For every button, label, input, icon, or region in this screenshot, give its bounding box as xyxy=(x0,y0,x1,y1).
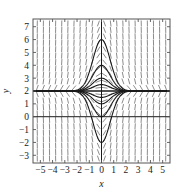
x-tick-label: 0 xyxy=(99,165,104,175)
slope-field-chart: −5−4−3−2−1012345 −3−2−101234567 x y xyxy=(0,0,182,193)
slope-field-figure: −5−4−3−2−1012345 −3−2−101234567 x y xyxy=(0,0,182,193)
y-tick-label: 6 xyxy=(24,35,29,45)
x-tick-label: −3 xyxy=(60,165,70,175)
x-tick-label: −1 xyxy=(84,165,94,175)
x-tick-label: 3 xyxy=(136,165,141,175)
y-tick-label: 4 xyxy=(24,61,29,71)
y-tick-label: −2 xyxy=(19,138,29,148)
x-tick-label: 2 xyxy=(124,165,129,175)
x-axis-title: x xyxy=(98,178,104,189)
x-tick-label: −2 xyxy=(72,165,82,175)
x-tick-label: 5 xyxy=(160,165,165,175)
y-tick-label: 5 xyxy=(24,48,29,58)
y-tick-label: 7 xyxy=(24,22,29,32)
y-tick-label: −3 xyxy=(19,151,29,161)
y-tick-label: 0 xyxy=(24,112,29,122)
x-tick-label: 4 xyxy=(148,165,153,175)
y-tick-label: 3 xyxy=(24,74,29,84)
y-tick-label: 2 xyxy=(24,86,29,96)
y-tick-label: −1 xyxy=(19,125,29,135)
x-tick-label: 1 xyxy=(111,165,116,175)
x-tick-label: −5 xyxy=(35,165,45,175)
x-tick-label: −4 xyxy=(48,165,58,175)
y-axis-title: y xyxy=(0,88,11,94)
y-tick-label: 1 xyxy=(24,99,29,109)
